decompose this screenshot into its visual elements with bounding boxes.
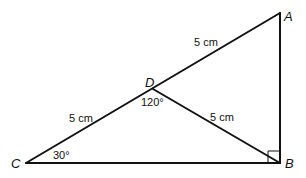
angle-cdb-label: 120°: [141, 96, 164, 108]
point-label-d: D: [145, 75, 154, 90]
length-db: 5 cm: [210, 111, 234, 123]
point-label-c: C: [11, 156, 21, 171]
length-cd: 5 cm: [69, 112, 93, 124]
length-ad: 5 cm: [194, 36, 218, 48]
point-label-b: B: [285, 156, 294, 171]
segment-db: [153, 89, 280, 163]
angle-acb-label: 30°: [53, 149, 70, 161]
triangle-diagram: A B C D 5 cm 5 cm 5 cm 120° 30°: [0, 0, 306, 178]
point-label-a: A: [283, 9, 293, 24]
